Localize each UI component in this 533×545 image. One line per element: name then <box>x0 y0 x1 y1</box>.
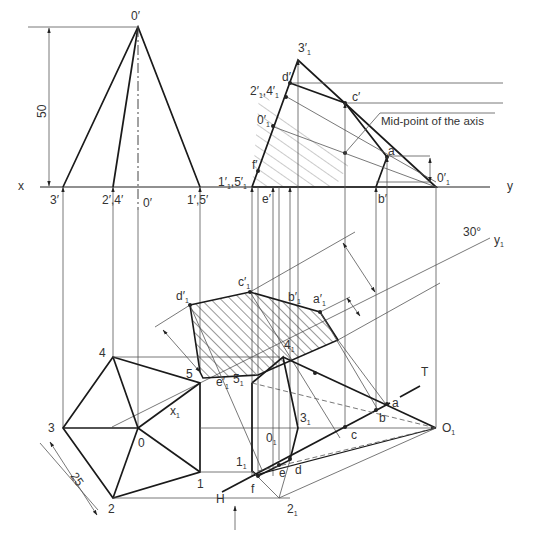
angle-dimension: 30° <box>463 225 481 239</box>
point-label: 0′ <box>143 196 153 210</box>
point-label: 2 <box>108 502 115 516</box>
base-side-dimension: 25 <box>68 470 87 489</box>
point-label: e <box>279 466 286 480</box>
point-label: 4 <box>99 346 106 360</box>
point-label: c <box>351 428 357 442</box>
height-dimension: 50 <box>35 104 49 118</box>
apex-label: 0′ <box>131 9 141 23</box>
point-label: 21 <box>287 502 298 517</box>
point-label: 01 <box>266 431 277 446</box>
point-label: 2′1,4′1 <box>250 84 279 99</box>
point-label: 31 <box>300 411 311 426</box>
point-label: d′ <box>282 70 292 84</box>
vt-label: H <box>216 492 225 506</box>
ht-label: T <box>421 365 429 379</box>
point-label: O1 <box>442 421 455 436</box>
point-label: f′ <box>252 158 258 172</box>
aux-apex-label: 3′1 <box>298 41 311 56</box>
point-label: 11 <box>236 455 247 470</box>
point-label: 0 <box>138 436 145 450</box>
point-label: c′1 <box>238 275 250 290</box>
point-label: b′1 <box>288 290 301 305</box>
point-label: a <box>392 396 399 410</box>
point-label: b′ <box>378 192 388 206</box>
midpoint-annotation: Mid-point of the axis <box>381 115 484 127</box>
point-label: 3 <box>48 421 55 435</box>
point-label: b <box>379 411 386 425</box>
point-label: 1 <box>197 477 204 491</box>
x-axis-label: x <box>18 179 24 193</box>
point-label: f <box>251 482 255 496</box>
point-label: 1′1,5′1 <box>218 175 247 190</box>
auxiliary-front-view: Mid-point of the axis 3′1 d′ 2′1,4′1 c′ … <box>218 41 503 206</box>
point-label: a′1 <box>313 292 326 307</box>
point-label: e′ <box>262 192 272 206</box>
point-label: a <box>388 144 395 158</box>
y-axis-label: y <box>507 179 513 193</box>
engineering-drawing: x y 50 0′ 3′ 2′,4′ 0′ 1′,5′ <box>0 0 533 545</box>
point-label: d <box>295 463 302 477</box>
point-label: c′ <box>352 90 361 104</box>
point-label: 0′1 <box>437 171 450 186</box>
point-label: 5 <box>186 367 193 381</box>
point-label: 1′,5′ <box>187 193 209 207</box>
projectors <box>63 187 200 428</box>
true-shape-section: d′1 c′1 b′1 a′1 e′1 <box>155 232 440 470</box>
y1-label: y1 <box>494 233 504 248</box>
point-label: d′1 <box>176 289 189 304</box>
x1-label: x1 <box>170 404 180 419</box>
point-label: 3′ <box>50 193 60 207</box>
front-view: 50 0′ 3′ 2′,4′ 0′ 1′,5′ <box>28 9 209 210</box>
